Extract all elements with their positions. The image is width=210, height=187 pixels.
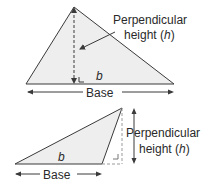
obtuse-triangle: Perpendicular height (h) b Base <box>15 108 200 182</box>
height-label-line2: height (h) <box>139 142 190 156</box>
height-label-line2: height (h) <box>124 28 175 42</box>
acute-triangle: Perpendicular height (h) b Base <box>26 7 187 100</box>
triangle-area-diagram: Perpendicular height (h) b Base Perpendi… <box>0 0 210 187</box>
height-label-line1: Perpendicular <box>126 126 200 140</box>
base-arrowhead-left <box>27 90 33 95</box>
base-arrowhead-left <box>15 172 21 177</box>
base-arrowhead-right <box>96 172 102 177</box>
base-variable-label: b <box>96 69 103 83</box>
base-variable-label: b <box>58 150 65 164</box>
height-arrowhead-bottom <box>132 158 137 164</box>
base-label: Base <box>86 86 114 100</box>
base-arrowhead-right <box>168 90 174 95</box>
base-label: Base <box>43 168 71 182</box>
height-label-line1: Perpendicular <box>113 13 187 27</box>
right-angle-marker <box>113 154 118 159</box>
height-arrowhead-top <box>132 108 137 114</box>
triangle-shape <box>15 108 122 164</box>
